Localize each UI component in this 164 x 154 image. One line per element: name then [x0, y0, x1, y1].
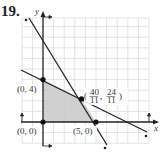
- label-intersection: ( 40 11 , 24 11 ): [84, 87, 128, 105]
- y-axis-arrow-icon: [41, 11, 46, 17]
- vertex-0-0: [40, 119, 45, 124]
- svg-text:11: 11: [107, 95, 116, 105]
- vertex-0-4: [40, 77, 45, 82]
- svg-text:11: 11: [90, 95, 99, 105]
- label-5-0: (5, 0): [73, 126, 93, 136]
- label-0-0: (0, 0): [17, 126, 37, 136]
- x-axis-label: x: [153, 123, 158, 133]
- line2-end-arrow-icon: [145, 135, 148, 138]
- svg-text:(: (: [84, 91, 87, 101]
- line1-end-arrow-icon: [25, 19, 28, 22]
- y-axis-label: y: [34, 6, 39, 16]
- svg-text:): ): [119, 91, 122, 101]
- graph: y x (0, 4) (0, 0) (5, 0) ( 40 11 , 24 11…: [0, 0, 164, 154]
- vertex-5-0: [93, 119, 98, 124]
- line1-end-arrow-icon-2: [104, 147, 107, 150]
- label-0-4: (0, 4): [17, 84, 37, 94]
- svg-text:,: ,: [100, 91, 102, 101]
